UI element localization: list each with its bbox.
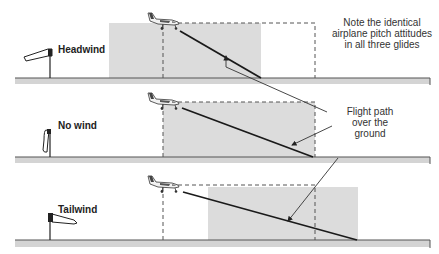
note-line-3: in all three glides: [322, 39, 439, 50]
flight-path-callout: Flight path over the ground: [326, 106, 414, 139]
callout-line-1: Flight path: [326, 106, 414, 117]
windsock-headwind-icon: [24, 49, 52, 78]
ground-strip: [15, 240, 430, 247]
label-tailwind: Tailwind: [58, 204, 97, 215]
windsock-tailwind-icon: [48, 213, 77, 240]
note-line-2: airplane pitch attitudes: [322, 28, 439, 39]
ground-strip: [15, 157, 430, 163]
callout-line-3: ground: [326, 128, 414, 139]
shaded-glide-area: [109, 23, 261, 78]
callout-line-2: over the: [326, 117, 414, 128]
label-no-wind: No wind: [58, 120, 97, 131]
label-headwind: Headwind: [58, 44, 105, 55]
windsock-calm-icon: [43, 129, 51, 157]
note-line-1: Note the identical: [322, 17, 439, 28]
shaded-glide-area: [208, 187, 358, 240]
pitch-attitude-note: Note the identical airplane pitch attitu…: [322, 17, 439, 50]
ground-strip: [15, 78, 430, 84]
